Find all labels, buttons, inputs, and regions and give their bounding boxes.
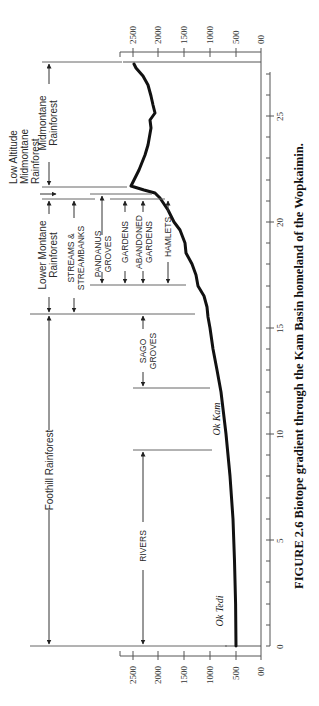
label-low-altitude-2: Midmontane	[19, 129, 30, 184]
tick-label: 1000	[205, 26, 215, 45]
tick-label: 00	[256, 35, 266, 45]
label-streams-1: STREAMS &	[66, 233, 76, 282]
label-midmontane-2: Rainforest	[48, 100, 59, 146]
tick-label: 1500	[179, 26, 189, 45]
label-hamlets: HAMLETS	[163, 217, 173, 257]
label-rivers: RIVERS	[138, 530, 148, 562]
tick-label: 25	[275, 112, 285, 122]
zone-labels: Foothill Rainforest Lower Montane Rainfo…	[8, 95, 59, 510]
tick-label: 500	[231, 30, 241, 44]
tick-label: 00	[256, 667, 266, 677]
tick-label: 15	[275, 324, 285, 334]
tick-label: 2000	[153, 666, 163, 685]
label-sago-2: GROVES	[148, 332, 158, 369]
label-foothill-rainforest: Foothill Rainforest	[44, 429, 55, 510]
label-pandanus-1: PANDANUS	[93, 230, 103, 277]
tick-label: 2500	[128, 26, 138, 45]
label-abandoned-1: ABANDONED	[134, 215, 144, 269]
tick-label: 5	[275, 538, 285, 543]
distance-axis	[266, 72, 274, 646]
altitude-axis-bottom	[120, 646, 261, 660]
label-gardens: GARDENS	[120, 221, 130, 263]
tick-label: 2000	[153, 26, 163, 45]
label-ok-kam: Ok Kam	[211, 402, 222, 435]
tick-label: 2500	[128, 666, 138, 685]
tick-label: 1000	[205, 666, 215, 685]
label-ok-tedi: Ok Tedi	[214, 595, 225, 626]
distance-axis-labels: 0 5 10 15 20 25	[275, 112, 285, 650]
label-sago-1: SAGO	[138, 338, 148, 363]
zone-boundaries	[30, 62, 227, 646]
altitude-axis-top	[120, 48, 261, 62]
tick-label: 10	[275, 430, 285, 440]
tick-label: 0	[275, 644, 285, 649]
label-midmontane-1: Midmontane	[37, 95, 48, 150]
label-pandanus-2: GROVES	[103, 235, 113, 272]
altitude-axis-top-labels: 2500 2000 1500 1000 500 00	[128, 26, 266, 45]
tick-label: 1500	[179, 666, 189, 685]
figure-caption: FIGURE 2.6 Biotope gradient through the …	[292, 143, 306, 589]
altitude-axis-bottom-labels: 2500 2000 1500 1000 500 00	[128, 666, 266, 685]
label-lower-montane-2: Rainforest	[48, 232, 59, 278]
tick-label: 500	[231, 666, 241, 680]
tick-label: 20	[275, 218, 285, 228]
label-lower-montane-1: Lower Montane	[37, 220, 48, 289]
biotope-gradient-figure: 2500 2000 1500 1000 500 00 2500 2000 150…	[0, 0, 319, 706]
label-low-altitude-1: Low Altitude	[8, 130, 19, 184]
label-abandoned-2: GARDENS	[144, 221, 154, 263]
label-streams-2: STREAMBANKS	[76, 226, 86, 291]
